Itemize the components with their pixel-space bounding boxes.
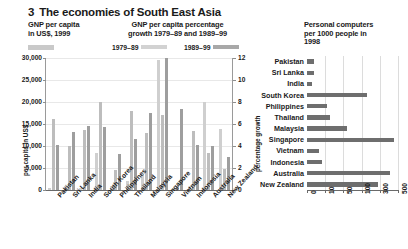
left-chart-header: GNP per capita in US$, 1999 [28,21,123,38]
right-header-line3: 1998 [304,38,400,47]
pc-bar-row: Philippines [258,101,405,112]
pc-country-label: Sri Lanka [257,67,304,78]
bar-group [48,58,59,190]
pc-bar-row: South Korea [258,90,405,101]
left-axis-tickmark [43,80,46,81]
right-chart-header: Personal computers per 1000 people in 19… [304,21,400,47]
bar-group [64,58,75,190]
pc-tickmark [398,190,399,193]
gnp-growth-chart: 05,00010,00015,00020,00025,00030,000 024… [0,52,258,192]
right-axis-tick-label: 12 [238,54,258,61]
pc-bar-row: Singapore [258,134,405,145]
pc-country-label: Philippines [257,101,304,112]
legend-swatch-1989-99 [213,45,239,49]
pc-country-label: India [257,78,304,89]
mid-chart-header: GNP per capita percentage growth 1979–89… [110,21,245,38]
pc-bar-row: Pakistan [258,56,405,67]
pc-bar-row: Malaysia [258,123,405,134]
left-axis-tickmark [43,168,46,169]
right-axis-tickmark [233,146,236,147]
pc-bar [307,104,327,108]
pc-bar-row: Australia [258,168,405,179]
legend-item-1979-89: 1979–89 [112,43,167,51]
legend-label-1989-99: 1989–99 [184,44,210,51]
pc-tick-label: 500 [401,183,408,194]
right-axis-tickmark [233,80,236,81]
left-axis-tick-label: 0 [4,186,42,193]
figure-number: 3 [28,6,34,18]
pc-country-label: Australia [257,168,304,179]
bar-group [79,58,90,190]
bar-group [188,58,199,190]
bar-growth-1989-99 [56,145,59,190]
pc-tick-label: 100 [364,183,371,194]
personal-computers-chart: PakistanSri LankaIndiaSouth KoreaPhilipp… [258,52,405,242]
pc-bar [307,149,319,153]
pc-tickmark [380,190,381,193]
pc-country-label: Singapore [257,134,304,145]
pc-tickmark [362,190,363,193]
bar-group [219,58,230,190]
right-axis-tickmark [233,168,236,169]
pc-bar-row: Thailand [258,112,405,123]
left-axis-title: per capita in US$ [22,125,29,176]
pc-country-label: South Korea [257,90,304,101]
pc-bar [307,71,314,75]
figure-title: 3The economies of South East Asia [28,6,221,18]
pc-bar-row: Indonesia [258,157,405,168]
bar-group [172,58,183,190]
pc-country-label: New Zealand [257,179,304,190]
pc-tickmark [307,190,308,193]
pc-country-label: Thailand [257,112,304,123]
pc-bar-row: India [258,78,405,89]
pc-tickmark [325,190,326,193]
bar-growth-1979-89 [52,119,55,191]
pc-country-label: Malaysia [257,123,304,134]
pc-country-label: Vietnam [257,145,304,156]
bar-gnp-per-capita [203,102,206,190]
bar-group [110,58,121,190]
pc-tick-label: 0 [310,190,317,194]
left-axis-tickmark [43,102,46,103]
left-axis-tick-label: 25,000 [4,76,42,83]
bar-group [95,58,106,190]
left-header-line2: in US$, 1999 [28,30,123,39]
legend-label-1979-89: 1979–89 [112,44,138,51]
left-axis-tick-label: 20,000 [4,98,42,105]
left-axis-tickmark [43,124,46,125]
right-axis-tickmark [233,58,236,59]
growth-legend: 1979–89 1989–99 [112,43,252,52]
pc-bar [307,93,367,97]
mid-header-line2: growth 1979–89 and 1989–99 [110,30,245,39]
left-axis-tickmark [43,146,46,147]
pc-bar-row: Sri Lanka [258,67,405,78]
pc-tickmark [343,190,344,193]
pc-bar [307,82,312,86]
right-axis-tickmark [233,102,236,103]
pc-country-label: Indonesia [257,157,304,168]
left-axis-tick-label: 30,000 [4,54,42,61]
pc-tick-label: 10 [328,187,335,194]
pc-bar [307,138,394,142]
pc-bar-row: Vietnam [258,145,405,156]
gnp-legend-swatch [28,45,54,50]
pc-bar [307,171,390,175]
right-axis-tickmark [233,124,236,125]
pc-bar [307,115,330,119]
legend-item-1989-99: 1989–99 [184,43,239,51]
bar-growth-1989-99 [103,127,106,190]
legend-swatch-1979-89 [141,45,167,49]
pc-tick-label: 50 [346,187,353,194]
left-axis-tickmark [43,190,46,191]
pc-tick-label: 300 [382,183,389,194]
bar-growth-1989-99 [165,58,168,190]
bar-growth-1979-89 [99,102,102,190]
pc-country-label: Pakistan [257,56,304,67]
right-axis-tick-label: 8 [238,98,258,105]
right-axis-tick-label: 10 [238,76,258,83]
pc-bar [307,59,314,63]
pc-bar [307,126,347,130]
figure-title-text: The economies of South East Asia [39,6,221,18]
left-axis-tickmark [43,58,46,59]
